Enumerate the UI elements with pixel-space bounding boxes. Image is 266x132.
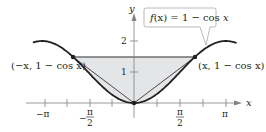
y-axis-label: y xyxy=(128,3,135,14)
left-point-label: (−x, 1 − cos x) xyxy=(11,60,86,71)
x-tick-label-pi-over-2: π 2 xyxy=(176,107,184,128)
y-tick-label-1: 1 xyxy=(121,67,127,77)
y-tick-label-2: 2 xyxy=(121,36,127,46)
right-intersection-point xyxy=(193,55,197,59)
x-axis-arrow-icon xyxy=(234,101,242,106)
svg-text:π: π xyxy=(87,107,93,117)
x-tick-label-neg-pi: −π xyxy=(36,109,50,119)
left-intersection-point xyxy=(71,55,75,59)
x-axis-label: x xyxy=(246,97,252,108)
x-tick-label-neg-pi-over-2: − π 2 xyxy=(79,107,94,128)
y-axis-arrow-icon xyxy=(132,13,137,21)
origin-point xyxy=(132,101,136,105)
graph-figure: x y 2 1 −π − π 2 π 2 π (−x, 1 − cos x) (… xyxy=(0,0,266,132)
svg-text:2: 2 xyxy=(177,118,183,128)
function-callout: f(x) = 1 − cos x xyxy=(144,8,229,45)
right-point-label: (x, 1 − cos x) xyxy=(198,60,265,71)
svg-text:π: π xyxy=(177,107,183,117)
x-tick-label-pi: π xyxy=(222,109,228,119)
svg-text:−: − xyxy=(79,113,87,123)
svg-text:f(x) = 1 − cos x: f(x) = 1 − cos x xyxy=(149,12,229,23)
svg-text:2: 2 xyxy=(87,118,93,128)
